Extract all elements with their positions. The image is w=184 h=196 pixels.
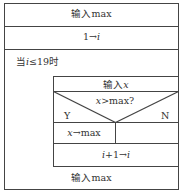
increment-var2: i bbox=[127, 149, 130, 160]
input-max-bottom-block: 输入max bbox=[4, 172, 179, 184]
yes-label: Y bbox=[64, 110, 70, 122]
branch-divider bbox=[115, 122, 116, 143]
decision-condition: x>max? bbox=[80, 95, 150, 107]
row-divider bbox=[53, 122, 179, 123]
decision-suffix: >max? bbox=[101, 95, 134, 106]
increment-mid: +1→ bbox=[105, 149, 127, 160]
increment-block: i+1→i bbox=[53, 149, 179, 161]
input-max-bottom-label: 输入max bbox=[71, 172, 111, 183]
assign-suffix: →max bbox=[73, 127, 101, 138]
row-divider bbox=[53, 143, 179, 144]
assign-max-block: x→max bbox=[53, 127, 115, 139]
no-label: N bbox=[161, 110, 169, 122]
